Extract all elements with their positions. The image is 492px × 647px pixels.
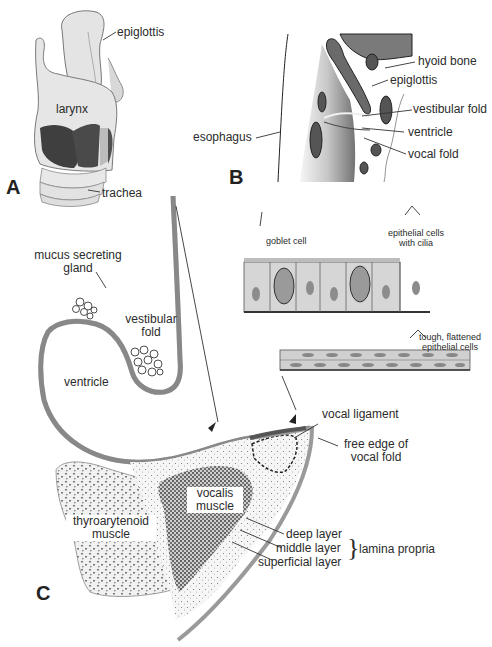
label-vocal-ligament: vocal ligament	[322, 408, 399, 421]
label-vestibular-fold-line2: fold	[118, 326, 184, 339]
panel-label-b: B	[229, 166, 243, 189]
hyoid-bone-shape	[366, 54, 378, 70]
panel-label-a: A	[6, 176, 20, 199]
label-epiglottis-b: epiglottis	[390, 74, 437, 87]
label-hyoid-bone: hyoid bone	[418, 55, 477, 68]
label-ventricle-b: ventricle	[408, 126, 453, 139]
label-thyroarytenoid-muscle: thyroarytenoid muscle	[66, 515, 156, 541]
label-ciliated-line1: epithelial cells	[368, 228, 464, 238]
label-flattened-cells: tough, flattened epithelial cells	[410, 332, 490, 352]
label-goblet-cell: goblet cell	[266, 236, 307, 246]
mucus-gland-cluster	[73, 298, 98, 319]
label-lamina-propria: lamina propria	[359, 543, 435, 556]
lamina-propria-brace: }	[347, 533, 359, 563]
label-flattened-line1: tough, flattened	[410, 332, 490, 342]
label-superficial-layer: superficial layer	[258, 556, 341, 569]
vestibular-fold-glands	[131, 346, 163, 376]
label-vocalis-muscle: vocalis muscle	[187, 487, 243, 513]
esophagus-wall	[278, 34, 288, 182]
label-middle-layer: middle layer	[276, 542, 341, 555]
label-thyro-line2: muscle	[69, 528, 153, 541]
label-vocalis-line2: muscle	[190, 500, 240, 513]
label-free-edge: free edge of vocal fold	[336, 438, 416, 464]
label-epiglottis-a: epiglottis	[117, 26, 164, 39]
label-deep-layer: deep layer	[286, 528, 342, 541]
label-vocal-fold-b: vocal fold	[408, 148, 459, 161]
label-vestibular-fold-c: vestibular fold	[118, 313, 184, 339]
panel-label-c: C	[36, 582, 50, 605]
label-mucus-gland: mucus secreting gland	[24, 249, 132, 275]
flattened-epithelium-strip	[280, 350, 470, 370]
label-ciliated-line2: with cilia	[368, 238, 464, 248]
label-larynx: larynx	[56, 103, 88, 116]
label-esophagus: esophagus	[193, 131, 252, 144]
label-flattened-line2: epithelial cells	[410, 342, 490, 352]
label-vestibular-fold-b: vestibular fold	[413, 103, 487, 116]
label-ventricle-c: ventricle	[64, 376, 109, 389]
label-ciliated-cells: epithelial cells with cilia	[368, 228, 464, 248]
label-trachea: trachea	[102, 187, 142, 200]
trachea-rings	[40, 168, 106, 207]
label-free-edge-line2: vocal fold	[336, 451, 416, 464]
panel-b-section-illustration	[256, 34, 420, 182]
ciliated-epithelium-strip	[244, 258, 430, 312]
label-mucus-gland-line2: gland	[24, 262, 132, 275]
